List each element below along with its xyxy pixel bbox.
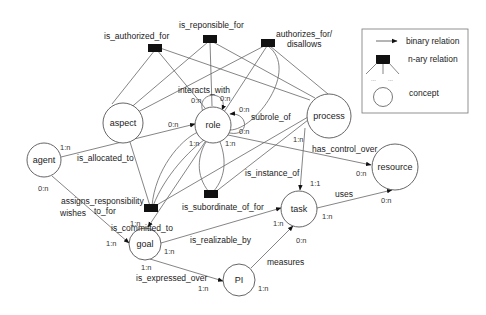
label-authorizes-for: authorizes_for/ [276,29,333,39]
label-uses: uses [335,189,353,199]
concept-agent: agent [27,143,61,177]
concept-label-agent: agent [33,155,56,165]
card-task-left: 1:n [273,219,283,228]
card-alloc-agent: 1:n [60,143,70,152]
card-task-1-1: 1:1 [310,179,320,188]
card-pi-left: 1:n [198,284,208,293]
concept-role: role [195,107,231,143]
label-is-instance-of: is_instance_of [245,168,300,178]
card-subrole: 0:n [239,105,249,114]
card-process-1n: 1:n [293,135,303,144]
concept-label-goal: goal [136,239,153,249]
label-measures: measures [267,257,304,267]
card-role-1n-b: 1:n [225,139,235,148]
legend-concept: concept [409,88,439,98]
card-role-0n: 0:n [239,127,249,136]
label-is-reponsible-for: is_reponsible_for [179,20,244,30]
svg-text:...: ... [371,76,376,82]
card-role-1n-a: 1:n [189,139,199,148]
concept-label-role: role [205,120,220,130]
concept-label-process: process [313,111,345,121]
concept-diagram: aspect role process agent resource task … [0,0,486,315]
concept-label-task: task [291,204,308,214]
card-interacts-right: 0:n [220,94,230,103]
card-agent-0n: 0:n [38,184,48,193]
card-goal-right: 1:n [164,247,174,256]
nary-box-assigns-responsibility [144,204,158,212]
label-has-control-over: has_control_over [312,144,377,154]
concept-label-resource: resource [377,162,412,172]
legend-nary-box-icon [376,55,390,64]
legend-concept-circle-icon [374,88,393,107]
card-interacts-left: 0:n [191,96,201,105]
legend-binary-relation: binary relation [406,36,460,46]
nary-box-is-subordinate-of-for [204,190,218,198]
concept-pi: PI [223,264,255,296]
card-goal-top: 1:n [130,219,140,228]
card-goal-left: 1:n [106,239,116,248]
label-is-realizable-by: is_realizable_by [190,235,252,245]
card-task-0n: 0:n [296,236,306,245]
label-is-authorized-for: is_authorized_for [104,31,169,41]
concept-task: task [281,191,317,227]
card-resource-a: 0:n [356,169,366,178]
concept-label-aspect: aspect [110,118,137,128]
card-alloc-role: 0:n [168,120,178,129]
label-disallows: disallows [287,39,322,49]
card-pi-right: 1:n [258,284,268,293]
label-is-committed-to: is_committed_to [111,223,173,233]
nary-box-is-reponsible-for [203,35,217,43]
label-assigns-responsibility: assigns_responsibility [61,196,144,206]
svg-text:...: ... [388,76,393,82]
concept-resource: resource [372,144,418,190]
card-resource-b: 0:n [381,196,391,205]
legend-nary-relation: n-ary relation [408,54,458,64]
label-is-allocated-to: is_allocated_to [77,153,134,163]
label-wishes: wishes [59,208,86,218]
label-subrole-of: subrole_of [251,112,291,122]
concept-label-pi: PI [235,275,244,285]
concept-process: process [307,94,351,138]
label-to-for: to_for [94,206,116,216]
nary-box-is-authorized-for [148,44,162,52]
label-is-subordinate-of-for: is_subordinate_of_for [182,202,264,212]
card-task-uses: 1:n [322,212,332,221]
card-goal-bottom: 1:n [141,263,151,272]
legend: binary relation ... ... n-ary relation c… [362,29,468,113]
label-is-expressed-over: is_expressed_over [136,273,208,283]
nary-box-authorizes-for [261,39,275,47]
concept-aspect: aspect [103,103,143,143]
